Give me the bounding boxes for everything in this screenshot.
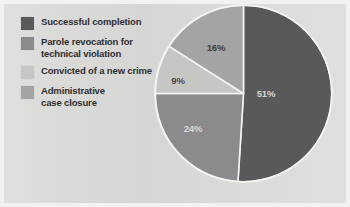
legend-label-administrative-case-closure: Administrative case closure bbox=[41, 85, 105, 108]
pie-slice-label-9: 9% bbox=[171, 75, 185, 86]
pie-chart: 51% 24% 9% 16% bbox=[154, 4, 333, 183]
legend-label-convicted-new-crime: Convicted of a new crime bbox=[41, 65, 152, 77]
legend-swatch-icon-administrative-case-closure bbox=[21, 86, 34, 99]
pie-slice-51[interactable] bbox=[238, 5, 332, 182]
legend-item-successful-completion[interactable]: Successful completion bbox=[21, 16, 166, 30]
pie-slice-label-24: 24% bbox=[184, 123, 203, 134]
pie-chart-svg: 51% 24% 9% 16% bbox=[154, 4, 333, 183]
chart-panel: Successful completion Parole revocation … bbox=[0, 0, 350, 207]
pie-slice-24[interactable] bbox=[155, 94, 243, 182]
pie-slice-label-16: 16% bbox=[207, 42, 226, 53]
pie-chart-screenshot: Successful completion Parole revocation … bbox=[0, 0, 350, 207]
chart-legend: Successful completion Parole revocation … bbox=[21, 16, 166, 114]
legend-label-parole-revocation: Parole revocation for technical violatio… bbox=[41, 36, 133, 59]
legend-label-successful-completion: Successful completion bbox=[41, 16, 141, 28]
legend-swatch-icon-successful-completion bbox=[21, 17, 34, 30]
pie-slice-label-51: 51% bbox=[257, 88, 276, 99]
legend-swatch-icon-parole-revocation bbox=[21, 37, 34, 50]
legend-item-administrative-case-closure[interactable]: Administrative case closure bbox=[21, 85, 166, 108]
legend-swatch-icon-convicted-new-crime bbox=[21, 66, 34, 79]
legend-item-parole-revocation[interactable]: Parole revocation for technical violatio… bbox=[21, 36, 166, 59]
legend-item-convicted-new-crime[interactable]: Convicted of a new crime bbox=[21, 65, 166, 79]
